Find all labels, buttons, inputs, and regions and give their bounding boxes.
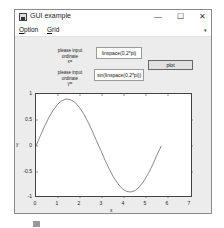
menu-option-rest: ption <box>24 26 38 33</box>
menu-bar: Option Grid ▾ <box>15 24 211 37</box>
x-tick: 2 <box>75 200 83 206</box>
plot-button[interactable]: plot <box>148 60 193 70</box>
x-tick: 6 <box>163 200 171 206</box>
menu-option[interactable]: Option <box>19 26 38 33</box>
y-tick: 1 <box>18 90 32 96</box>
y-tick: 0 <box>18 142 32 148</box>
y-ordinate-input[interactable]: sin(linspace(0,2*pi)) <box>94 69 144 81</box>
figure-icon <box>19 13 27 21</box>
y-axis-label: y <box>16 141 19 147</box>
maximize-button[interactable]: ☐ <box>173 11 187 23</box>
y-tick: -1 <box>18 193 32 199</box>
y-label-line1: please input ordinate <box>50 70 90 81</box>
x-tick: 5 <box>141 200 149 206</box>
x-tick: 0 <box>31 200 39 206</box>
x-tick: 7 <box>185 200 193 206</box>
sine-curve <box>36 94 193 198</box>
close-button[interactable]: ✕ <box>195 11 209 23</box>
x-tick: 1 <box>53 200 61 206</box>
x-tick: 3 <box>97 200 105 206</box>
y-input-label: please input ordinate y= <box>50 70 90 87</box>
title-bar[interactable]: GUI example — ☐ ✕ <box>15 10 211 24</box>
x-input-label: please input ordinate x= <box>50 48 90 65</box>
gui-example-window: GUI example — ☐ ✕ Option Grid ▾ please i… <box>14 9 212 214</box>
x-tick: 4 <box>119 200 127 206</box>
x-label-line2: x= <box>50 59 90 65</box>
y-tick: -0.5 <box>18 168 32 174</box>
x-axis-label: x <box>110 207 113 213</box>
menu-grid-rest: rid <box>52 26 59 33</box>
y-tick: 0.5 <box>18 116 32 122</box>
menu-grid[interactable]: Grid <box>47 26 59 33</box>
figure-client-area: please input ordinate x= linspace(0,2*pi… <box>15 37 211 213</box>
plot-axes[interactable] <box>35 93 192 197</box>
window-title: GUI example <box>30 12 71 19</box>
y-label-line2: y= <box>50 81 90 87</box>
taskbar-item-icon <box>33 221 40 227</box>
x-ordinate-input[interactable]: linspace(0,2*pi) <box>96 47 142 59</box>
toolbar-dropdown-icon[interactable]: ▾ <box>204 27 207 33</box>
minimize-button[interactable]: — <box>151 11 165 23</box>
x-label-line1: please input ordinate <box>50 48 90 59</box>
